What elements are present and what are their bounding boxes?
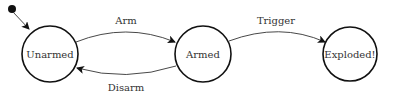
initial-state-dot — [8, 5, 16, 13]
state-unarmed-label: Unarmed — [26, 49, 74, 60]
state-armed-label: Armed — [185, 49, 220, 60]
state-unarmed: Unarmed — [22, 26, 78, 82]
initial-transition-arrow — [13, 12, 29, 29]
state-exploded: Exploded! — [323, 27, 377, 81]
state-diagram: Unarmed Armed Exploded! Arm Disarm Trigg… — [0, 0, 397, 92]
transition-trigger-label: Trigger — [257, 15, 295, 26]
transition-disarm-label: Disarm — [108, 82, 145, 92]
transition-arm-arrow — [76, 32, 175, 42]
transition-disarm-arrow — [77, 66, 176, 75]
transition-arm-label: Arm — [114, 15, 137, 26]
state-exploded-label: Exploded! — [324, 49, 375, 60]
state-armed: Armed — [175, 26, 231, 82]
transition-trigger-arrow — [229, 32, 325, 42]
